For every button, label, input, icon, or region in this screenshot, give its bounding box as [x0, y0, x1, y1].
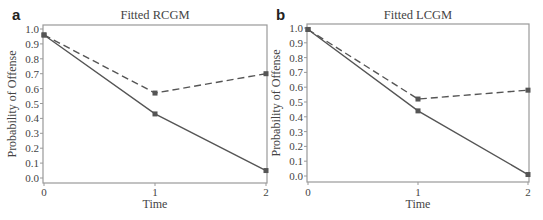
data-point-marker — [264, 71, 269, 76]
data-point-marker — [416, 108, 421, 113]
y-tick-label: 0.5 — [289, 96, 303, 108]
y-tick-label: 0.0 — [289, 170, 303, 182]
y-axis-label: Probability of Offense — [269, 49, 283, 156]
y-tick-label: 1.0 — [289, 22, 303, 34]
series-line-solid — [308, 29, 528, 174]
y-tick-label: 0.0 — [25, 172, 39, 184]
y-axis-label: Probability of Offense — [5, 50, 19, 157]
y-tick-label: 0.3 — [25, 127, 39, 139]
data-point-marker — [264, 168, 269, 173]
y-tick-label: 0.7 — [25, 68, 39, 80]
data-point-marker — [306, 27, 311, 32]
plot-frame — [307, 24, 529, 182]
x-tick-label: 0 — [305, 186, 311, 198]
panel-letter: b — [276, 6, 285, 23]
y-tick-label: 0.2 — [289, 140, 303, 152]
x-tick-label: 2 — [263, 186, 269, 198]
y-tick-label: 0.5 — [25, 98, 39, 110]
y-tick-label: 1.0 — [25, 23, 39, 35]
y-tick-label: 0.9 — [25, 38, 39, 50]
plot-frame — [43, 25, 267, 183]
chart-title: Fitted LCGM — [384, 8, 452, 22]
y-tick-label: 0.1 — [25, 157, 39, 169]
x-tick-label: 0 — [41, 186, 47, 198]
data-point-marker — [526, 88, 531, 93]
series-line-dashed — [44, 35, 266, 93]
y-tick-label: 0.8 — [289, 52, 303, 64]
data-point-marker — [416, 97, 421, 102]
data-point-marker — [42, 32, 47, 37]
panel-letter: a — [12, 6, 21, 23]
x-tick-label: 2 — [525, 186, 531, 198]
chart-panel-b: bFitted LCGM0.00.10.20.30.40.50.60.70.80… — [269, 6, 531, 211]
series-line-solid — [44, 35, 266, 171]
y-tick-label: 0.4 — [25, 112, 39, 124]
data-point-marker — [153, 111, 158, 116]
y-tick-label: 0.4 — [289, 111, 303, 123]
y-tick-label: 0.9 — [289, 37, 303, 49]
x-axis-label: Time — [143, 197, 168, 211]
figure: aFitted RCGM0.00.10.20.30.40.50.60.70.80… — [0, 0, 543, 220]
y-tick-label: 0.6 — [289, 81, 303, 93]
y-tick-label: 0.2 — [25, 142, 39, 154]
y-tick-label: 0.1 — [289, 155, 303, 167]
data-point-marker — [526, 172, 531, 177]
series-line-dashed — [308, 29, 528, 99]
y-tick-label: 0.8 — [25, 53, 39, 65]
data-point-marker — [153, 91, 158, 96]
y-tick-label: 0.3 — [289, 126, 303, 138]
chart-title: Fitted RCGM — [120, 8, 189, 22]
y-tick-label: 0.7 — [289, 66, 303, 78]
chart-panel-a: aFitted RCGM0.00.10.20.30.40.50.60.70.80… — [5, 6, 269, 211]
y-tick-label: 0.6 — [25, 83, 39, 95]
x-axis-label: Time — [406, 197, 431, 211]
